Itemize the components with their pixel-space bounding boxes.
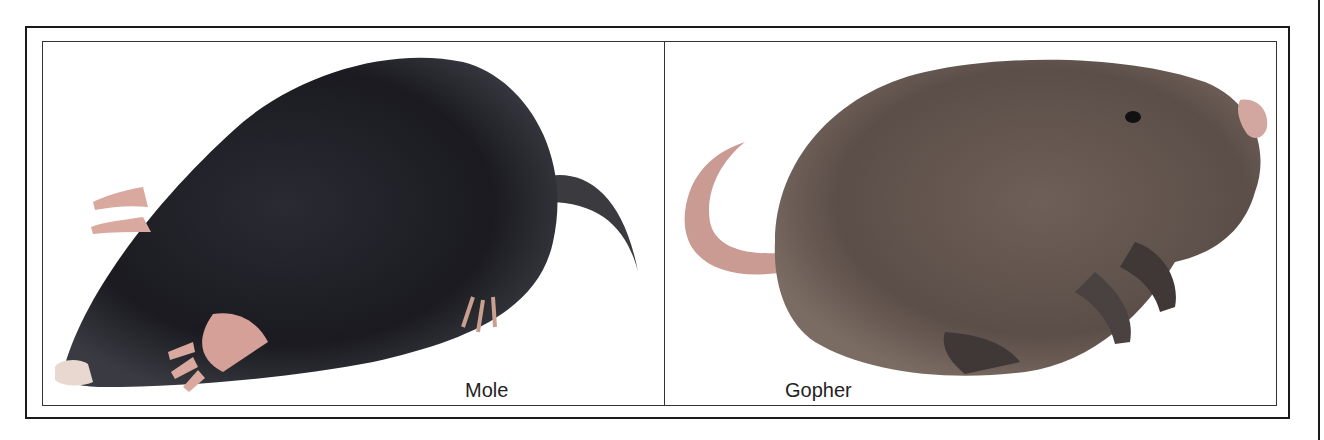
page-edge-line — [1318, 0, 1320, 440]
mole-panel: Mole — [43, 42, 663, 405]
mole-label: Mole — [465, 379, 508, 402]
gopher-panel: Gopher — [665, 42, 1276, 405]
gopher-label: Gopher — [785, 379, 852, 402]
mole-illustration — [43, 42, 663, 405]
gopher-illustration — [665, 42, 1276, 405]
